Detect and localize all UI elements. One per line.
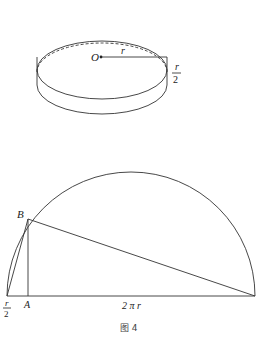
cylinder-bottom-front bbox=[37, 85, 167, 114]
radius-label: r bbox=[121, 45, 125, 56]
point-b-label: B bbox=[17, 208, 24, 220]
cylinder-top-ellipse bbox=[37, 41, 167, 99]
center-label: O bbox=[91, 51, 99, 63]
height-label-numerator: r bbox=[175, 61, 179, 72]
center-point bbox=[100, 56, 103, 59]
base-length-label: 2 π r bbox=[122, 300, 141, 311]
semicircle-arc bbox=[7, 172, 255, 296]
chord-b-to-right bbox=[28, 219, 255, 296]
chord-left-to-b bbox=[7, 219, 28, 296]
semicircle-diagram bbox=[7, 172, 255, 296]
left-label-denominator: 2 bbox=[4, 309, 9, 319]
figure-canvas: O r r 2 B A r 2 2 π r 图 4 bbox=[0, 0, 263, 339]
left-label-numerator: r bbox=[5, 298, 9, 308]
point-a-label: A bbox=[23, 299, 31, 310]
figure-caption: 图 4 bbox=[120, 323, 138, 333]
cylinder-diagram bbox=[37, 41, 167, 114]
height-label-denominator: 2 bbox=[173, 74, 178, 85]
